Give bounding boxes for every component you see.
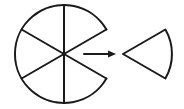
diagram-canvas: Circle divided into 6 equal sectors with… <box>0 0 184 109</box>
sector-edge-upper <box>64 30 106 55</box>
removed-sector <box>123 30 172 79</box>
spoke-upper-left <box>22 30 64 55</box>
arrow-head-icon <box>108 51 116 58</box>
fraction-diagram <box>0 0 184 109</box>
spoke-lower-left <box>22 54 64 79</box>
sector-edge-lower <box>64 54 106 79</box>
